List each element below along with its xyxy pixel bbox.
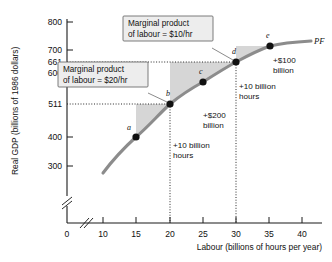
x-ticklabel-35: 35	[264, 229, 274, 239]
annotation-hours-increment-2-line1: +10 billion	[239, 82, 276, 91]
data-point-d	[232, 58, 239, 65]
annotation-hours-increment-2-line2: hours	[239, 92, 259, 101]
data-point-e	[266, 42, 273, 49]
y-axis-title: Real GDP (billions of 1986 dollars)	[10, 46, 20, 175]
x-ticklabel-30: 30	[231, 229, 241, 239]
callout-mp-10: Marginal product of labour = $10/hr	[123, 16, 233, 60]
y-ticks	[67, 22, 73, 166]
callout-mp-10-line1: Marginal product	[128, 19, 190, 28]
data-point-c	[199, 78, 206, 85]
data-point-label-b: b	[166, 89, 170, 98]
annotation-gdp-increment-2-line1: +$100	[273, 56, 296, 65]
x-ticklabel-10: 10	[98, 229, 108, 239]
callout-mp-20-line1: Marginal product	[63, 65, 125, 74]
annotation-hours-increment-1-line1: +10 billion	[173, 141, 210, 150]
y-ticklabel-400: 400	[48, 132, 63, 142]
callout-mp-20-leader	[148, 93, 167, 102]
x-ticklabel-20: 20	[165, 229, 175, 239]
y-ticklabel-300: 300	[48, 161, 63, 171]
x-axis-title: Labour (billions of hours per year)	[197, 242, 322, 252]
pf-curve-label: PF	[313, 36, 325, 46]
callout-mp-20-line2: of labour = $20/hr	[63, 76, 128, 85]
data-point-label-a: a	[127, 123, 131, 132]
callout-mp-10-line2: of labour = $10/hr	[128, 30, 193, 39]
annotation-gdp-increment-1-line2: billion	[203, 121, 224, 130]
callout-mp-20: Marginal product of labour = $20/hr	[58, 62, 167, 102]
callout-mp-10-leader	[212, 48, 233, 60]
data-point-label-c: c	[199, 67, 203, 76]
x-ticklabel-0: 0	[65, 229, 70, 239]
y-ticklabel-800: 800	[48, 17, 63, 27]
x-ticklabel-15: 15	[131, 229, 141, 239]
data-point-label-e: e	[266, 31, 270, 40]
y-ticklabel-700: 700	[48, 45, 63, 55]
annotation-gdp-increment-2-line2: billion	[273, 66, 294, 75]
x-ticks	[103, 217, 302, 223]
x-ticklabel-25: 25	[198, 229, 208, 239]
production-function-chart: 800 700 661 600 511 400 300 0 10 15 20 2…	[0, 0, 332, 262]
data-point-b	[166, 100, 173, 107]
y-ticklabel-511: 511	[48, 99, 62, 109]
x-ticklabel-40: 40	[297, 229, 307, 239]
annotation-hours-increment-1-line2: hours	[173, 151, 193, 160]
annotation-gdp-increment-1-line1: +$200	[203, 111, 226, 120]
data-point-a	[132, 133, 139, 140]
